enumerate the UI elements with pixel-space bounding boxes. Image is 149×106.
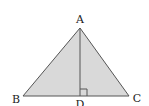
label-b: B xyxy=(12,93,20,106)
label-a: A xyxy=(75,13,85,26)
label-c: C xyxy=(133,92,141,105)
triangle-diagram: A B C D xyxy=(0,0,149,106)
label-d: D xyxy=(76,98,85,106)
triangle-abc xyxy=(23,28,129,96)
diagram-canvas: A B C D xyxy=(0,0,149,106)
